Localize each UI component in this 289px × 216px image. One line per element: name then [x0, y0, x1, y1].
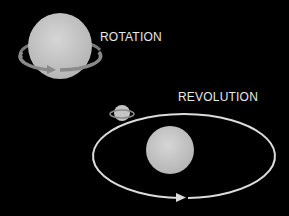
diagram-canvas: ROTATION REVOLUTION — [0, 0, 289, 216]
rotation-group — [20, 13, 101, 79]
sun — [146, 126, 194, 174]
revolution-label: REVOLUTION — [178, 90, 258, 104]
revolution-group — [93, 105, 275, 202]
rotation-label: ROTATION — [100, 30, 162, 44]
revolution-arrow-icon — [176, 193, 186, 202]
